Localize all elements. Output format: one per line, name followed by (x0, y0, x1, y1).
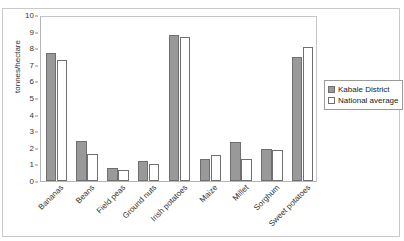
bar-group (164, 17, 195, 181)
bar-group (256, 17, 287, 181)
figure-title-faint (0, 0, 404, 7)
bar-kabale-district (292, 57, 303, 181)
bar-group (195, 17, 226, 181)
y-axis-tick-label: 6 (30, 78, 34, 86)
legend-item-label: National average (338, 96, 398, 105)
chart-legend: Kabale DistrictNational average (324, 80, 403, 110)
y-axis-tick-mark (35, 182, 38, 183)
x-axis-label: Maize (198, 183, 219, 204)
y-axis-tick-mark (35, 49, 38, 50)
bar-chart-figure: tonnes/hectare 012345678910 BananasBeans… (0, 0, 404, 241)
bar-national-average (87, 154, 98, 181)
plot-area (40, 16, 317, 182)
y-axis-tick-mark (35, 165, 38, 166)
y-axis-tick-mark (35, 148, 38, 149)
bar-group (133, 17, 164, 181)
bar-national-average (118, 170, 129, 181)
y-axis-tick-label: 1 (30, 161, 34, 169)
legend-item: National average (328, 95, 398, 106)
x-axis-label: Millet (231, 183, 251, 203)
bars-layer (41, 17, 316, 181)
y-axis-tick-label: 9 (30, 29, 34, 37)
y-axis-tick-mark (35, 16, 38, 17)
bar-national-average (272, 150, 283, 181)
y-axis-tick-label: 0 (30, 178, 34, 186)
x-axis-label: Beans (74, 183, 96, 205)
y-axis-tick-label: 2 (30, 145, 34, 153)
bar-kabale-district (107, 168, 118, 181)
y-axis: 012345678910 (16, 16, 38, 182)
y-axis-tick-mark (35, 132, 38, 133)
legend-item: Kabale District (328, 84, 398, 95)
bar-national-average (211, 155, 222, 181)
x-axis-label: Bananas (37, 183, 66, 212)
bar-national-average (241, 159, 252, 181)
bar-kabale-district (138, 161, 149, 181)
y-axis-tick-label: 5 (30, 95, 34, 103)
bar-group (72, 17, 103, 181)
bar-kabale-district (230, 142, 241, 181)
y-axis-tick-label: 7 (30, 62, 34, 70)
bar-kabale-district (200, 159, 211, 181)
y-axis-tick-label: 10 (25, 12, 34, 20)
y-axis-tick-label: 8 (30, 45, 34, 53)
y-axis-tick-mark (35, 32, 38, 33)
x-axis-label: Sorghum (252, 183, 281, 212)
y-axis-tick-mark (35, 99, 38, 100)
bar-group (226, 17, 257, 181)
bar-national-average (149, 164, 160, 181)
bar-national-average (180, 37, 191, 181)
y-axis-tick-label: 3 (30, 128, 34, 136)
bar-group (103, 17, 134, 181)
bar-kabale-district (76, 141, 87, 181)
y-axis-tick-mark (35, 115, 38, 116)
bar-group (287, 17, 318, 181)
bar-kabale-district (261, 149, 272, 181)
bar-national-average (57, 60, 68, 181)
y-axis-tick-mark (35, 82, 38, 83)
filled-gray-swatch (328, 86, 335, 93)
bar-national-average (303, 47, 314, 181)
y-axis-tick-mark (35, 65, 38, 66)
x-axis-category-labels: BananasBeansField peasGround nutsIrish p… (40, 183, 380, 239)
y-axis-tick-label: 4 (30, 112, 34, 120)
bar-kabale-district (169, 35, 180, 181)
legend-item-label: Kabale District (338, 85, 390, 94)
empty-white-swatch (328, 97, 335, 104)
bar-group (41, 17, 72, 181)
bar-kabale-district (46, 53, 57, 181)
